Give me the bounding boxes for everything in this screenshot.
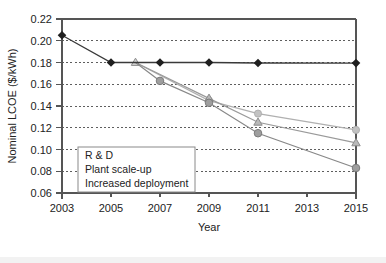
x-tick-label: 2007	[148, 202, 172, 214]
x-tick-label: 2009	[197, 202, 221, 214]
data-point	[254, 129, 262, 137]
data-point	[156, 77, 164, 85]
legend-item-plant-scale-up: Plant scale-up	[85, 163, 152, 175]
y-tick-label: 0.18	[31, 57, 52, 69]
y-tick-label: 0.08	[31, 165, 52, 177]
data-point	[205, 99, 213, 107]
x-tick-label: 2011	[246, 202, 270, 214]
y-tick-label: 0.10	[31, 144, 52, 156]
y-tick-label: 0.22	[31, 13, 52, 25]
data-point	[352, 126, 359, 133]
y-tick-label: 0.14	[31, 100, 52, 112]
x-axis-title: Year	[198, 221, 221, 233]
y-tick-labels: 0.22 0.20 0.18 0.16 0.14 0.12 0.10 0.08 …	[31, 13, 52, 199]
x-tick-label: 2003	[50, 202, 74, 214]
legend-item-r-and-d: R & D	[85, 149, 113, 161]
data-point	[352, 164, 360, 172]
y-tick-label: 0.16	[31, 78, 52, 90]
y-tick-label: 0.20	[31, 35, 52, 47]
y-tick-label: 0.12	[31, 122, 52, 134]
data-point	[254, 110, 261, 117]
legend-item-increased-deployment: Increased deployment	[85, 177, 188, 189]
y-axis-title: Nominal LCOE ($/kWh)	[6, 49, 18, 164]
chart-legend: R & D Plant scale-up Increased deploymen…	[78, 147, 195, 192]
x-tick-label: 2005	[99, 202, 123, 214]
y-tick-label: 0.06	[31, 187, 52, 199]
x-tick-label: 2015	[344, 202, 368, 214]
chart-background	[0, 0, 386, 263]
x-tick-label: 2013	[295, 202, 319, 214]
page-edge-strip	[0, 257, 386, 263]
chart-figure: 0.22 0.20 0.18 0.16 0.14 0.12 0.10 0.08 …	[0, 0, 386, 263]
lcoe-line-chart: 0.22 0.20 0.18 0.16 0.14 0.12 0.10 0.08 …	[0, 0, 386, 263]
